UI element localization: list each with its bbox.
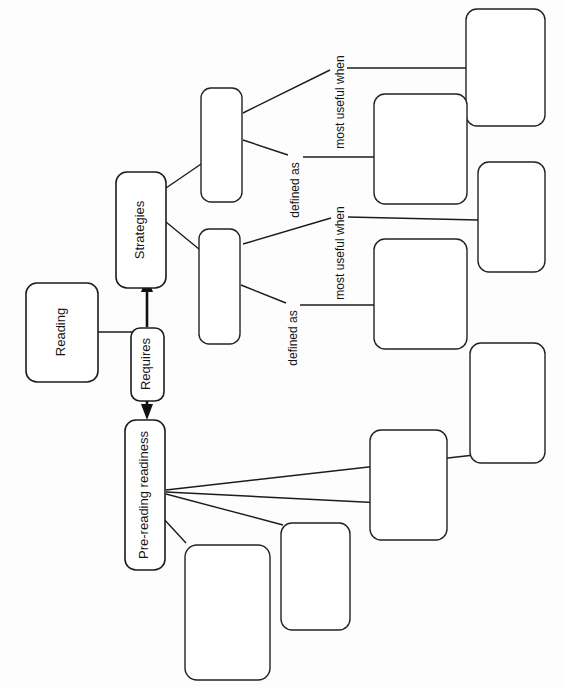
concept-map-diagram: Reading Requires Strategies Pre-reading … bbox=[0, 0, 565, 687]
node-reading[interactable]: Reading bbox=[26, 283, 98, 382]
node-strategy-a-usefulness-shape bbox=[466, 9, 545, 126]
edge-label-most-useful-when-upper: most useful when bbox=[333, 55, 347, 148]
node-reading-label: Reading bbox=[53, 308, 68, 356]
node-strategy-b[interactable] bbox=[199, 229, 240, 344]
edge-label-most-useful-when-lower: most useful when bbox=[333, 206, 347, 299]
node-readiness-item-3-shape bbox=[370, 430, 447, 540]
link-strategy-b-definition-diagonal bbox=[241, 285, 286, 303]
node-strategy-b-usefulness[interactable] bbox=[478, 162, 545, 272]
node-pre-reading-readiness-label: Pre-reading readiness bbox=[136, 431, 151, 559]
node-readiness-item-4[interactable] bbox=[470, 343, 545, 463]
link-strategy-a-definition-diagonal bbox=[243, 140, 288, 155]
node-pre-reading-readiness[interactable]: Pre-reading readiness bbox=[125, 420, 165, 570]
node-strategy-a-definition[interactable] bbox=[374, 94, 467, 204]
node-readiness-item-1[interactable] bbox=[185, 545, 270, 680]
node-strategy-b-definition-shape bbox=[374, 239, 467, 349]
node-strategy-a[interactable] bbox=[201, 88, 242, 202]
node-strategy-b-usefulness-shape bbox=[478, 162, 545, 272]
node-readiness-item-1-shape bbox=[185, 545, 270, 680]
node-strategy-a-definition-shape bbox=[374, 94, 467, 204]
link-readiness-to-item-3 bbox=[166, 492, 383, 503]
concept-map-page: Reading Requires Strategies Pre-reading … bbox=[0, 0, 565, 687]
node-strategy-a-usefulness[interactable] bbox=[466, 9, 545, 126]
link-strategy-b-usefulness-diagonal bbox=[243, 218, 331, 244]
link-strategy-a-usefulness-diagonal bbox=[243, 70, 330, 113]
node-readiness-item-2-shape bbox=[281, 523, 350, 630]
node-strategy-b-definition[interactable] bbox=[374, 239, 467, 349]
edge-label-defined-as-upper: defined as bbox=[288, 162, 302, 217]
node-strategies[interactable]: Strategies bbox=[116, 172, 166, 288]
node-strategy-b-shape bbox=[199, 229, 240, 344]
node-readiness-item-3[interactable] bbox=[370, 430, 447, 540]
node-requires-label: Requires bbox=[138, 337, 153, 390]
node-strategies-label: Strategies bbox=[132, 200, 147, 259]
node-requires[interactable]: Requires bbox=[131, 328, 164, 401]
arrowhead-down-icon bbox=[141, 404, 153, 420]
node-readiness-item-4-shape bbox=[470, 343, 545, 463]
link-readiness-to-item-2 bbox=[166, 494, 283, 525]
node-strategy-a-shape bbox=[201, 88, 242, 202]
node-readiness-item-2[interactable] bbox=[281, 523, 350, 630]
edge-label-defined-as-lower: defined as bbox=[286, 310, 300, 365]
link-strategy-b-usefulness-horizontal bbox=[348, 217, 478, 220]
